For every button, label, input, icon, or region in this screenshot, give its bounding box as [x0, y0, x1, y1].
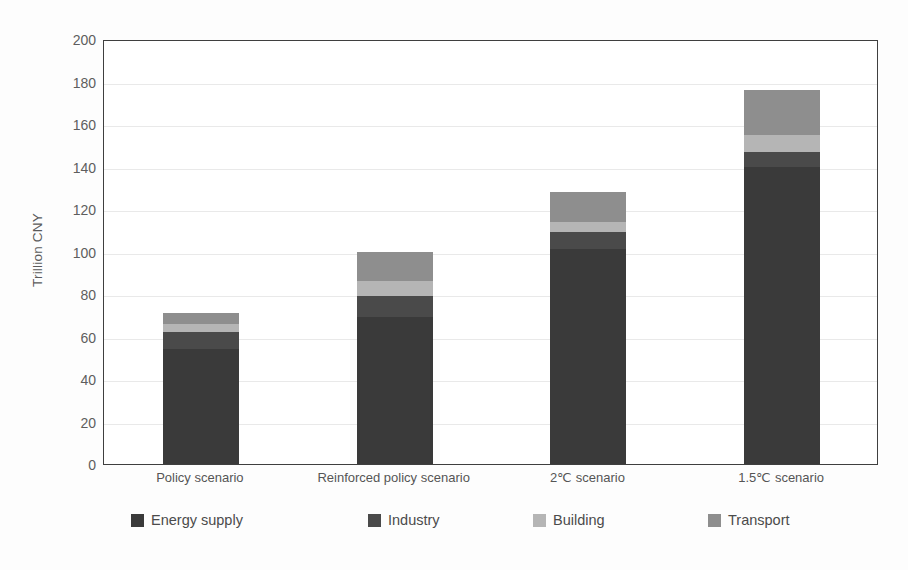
legend-label: Building — [553, 512, 605, 528]
y-axis-tick-label: 180 — [46, 75, 96, 91]
bar-segment[interactable] — [357, 281, 433, 296]
legend-swatch-icon — [368, 514, 381, 527]
legend-label: Energy supply — [151, 512, 243, 528]
y-axis-tick-label: 0 — [46, 457, 96, 473]
bar-segment[interactable] — [550, 192, 626, 222]
legend-label: Industry — [388, 512, 440, 528]
legend-swatch-icon — [708, 514, 721, 527]
bar-segment[interactable] — [163, 313, 239, 324]
bar-segment[interactable] — [163, 349, 239, 464]
y-axis-tick-label: 140 — [46, 160, 96, 176]
plot-area — [103, 40, 878, 465]
x-axis-category-label: Policy scenario — [156, 470, 243, 485]
y-axis-tick-label: 60 — [46, 330, 96, 346]
chart-legend: Energy supplyIndustryBuildingTransport — [103, 512, 878, 542]
bar-segment[interactable] — [163, 324, 239, 333]
y-axis-tick-label: 100 — [46, 245, 96, 261]
y-axis-tick-label: 120 — [46, 202, 96, 218]
bar-segment[interactable] — [163, 332, 239, 349]
bar-segment[interactable] — [744, 167, 820, 465]
legend-item[interactable]: Industry — [368, 512, 440, 528]
legend-label: Transport — [728, 512, 790, 528]
y-axis-tick-label: 40 — [46, 372, 96, 388]
legend-item[interactable]: Energy supply — [131, 512, 243, 528]
y-axis-tick-labels: 020406080100120140160180200 — [46, 40, 96, 465]
bar-segment[interactable] — [357, 296, 433, 317]
y-axis-tick-label: 200 — [46, 32, 96, 48]
bar-group[interactable] — [357, 39, 433, 464]
legend-item[interactable]: Transport — [708, 512, 790, 528]
bar-segment[interactable] — [357, 317, 433, 464]
legend-swatch-icon — [131, 514, 144, 527]
bar-segment[interactable] — [744, 152, 820, 167]
bar-segment[interactable] — [550, 249, 626, 464]
bars-layer — [104, 41, 877, 464]
legend-swatch-icon — [533, 514, 546, 527]
bar-group[interactable] — [550, 39, 626, 464]
x-axis-category-label: 1.5℃ scenario — [738, 470, 824, 485]
chart-container: Trillion CNY 020406080100120140160180200… — [0, 0, 908, 570]
y-axis-tick-label: 160 — [46, 117, 96, 133]
y-axis-tick-label: 80 — [46, 287, 96, 303]
bar-group[interactable] — [163, 39, 239, 464]
bar-segment[interactable] — [550, 222, 626, 233]
x-axis-category-label: Reinforced policy scenario — [317, 470, 469, 485]
y-axis-tick-label: 20 — [46, 415, 96, 431]
bar-segment[interactable] — [357, 252, 433, 282]
bar-segment[interactable] — [744, 90, 820, 135]
x-axis-category-label: 2℃ scenario — [550, 470, 625, 485]
bar-segment[interactable] — [550, 232, 626, 249]
legend-item[interactable]: Building — [533, 512, 605, 528]
bar-segment[interactable] — [744, 135, 820, 152]
bar-group[interactable] — [744, 39, 820, 464]
x-axis-category-labels: Policy scenarioReinforced policy scenari… — [103, 470, 878, 496]
